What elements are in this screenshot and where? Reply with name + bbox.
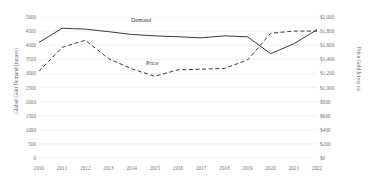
y-tick-left-2500: 2500: [12, 85, 36, 91]
x-tick-2022: 2022: [305, 165, 329, 171]
y-tick-left-3500: 3500: [12, 56, 36, 62]
plot-area: [39, 17, 317, 158]
y-tick-right-1800: $1,800: [320, 28, 348, 34]
x-tick-2013: 2013: [97, 165, 121, 171]
y-tick-left-1500: 1500: [12, 113, 36, 119]
price-line: [39, 31, 317, 76]
x-tick-2021: 2021: [282, 165, 306, 171]
y-tick-left-4500: 4500: [12, 28, 36, 34]
y-tick-left-3000: 3000: [12, 70, 36, 76]
y-tick-left-2000: 2000: [12, 99, 36, 105]
y-tick-right-400: $400: [320, 127, 348, 133]
x-tick-2017: 2017: [189, 165, 213, 171]
y-tick-right-600: $600: [320, 113, 348, 119]
y-tick-right-200: $200: [320, 141, 348, 147]
y-tick-left-4000: 4000: [12, 42, 36, 48]
y-tick-right-0: $0: [320, 155, 348, 161]
x-tick-2014: 2014: [120, 165, 144, 171]
y-axis-right-title: Price Gold $/troy oz: [356, 23, 362, 115]
y-tick-left-1000: 1000: [12, 127, 36, 133]
gold-demand-price-chart: Global Gold Demand (tonnes) Price Gold $…: [0, 0, 373, 186]
x-tick-2011: 2011: [50, 165, 74, 171]
y-tick-right-2000: $2,000: [320, 14, 348, 20]
price-series-label: Price: [146, 60, 158, 66]
x-tick-2020: 2020: [259, 165, 283, 171]
y-tick-left-500: 500: [12, 141, 36, 147]
x-tick-2018: 2018: [212, 165, 236, 171]
x-tick-2010: 2010: [27, 165, 51, 171]
x-tick-2019: 2019: [236, 165, 260, 171]
x-tick-2015: 2015: [143, 165, 167, 171]
y-tick-right-1200: $1,200: [320, 70, 348, 76]
y-tick-right-1600: $1,600: [320, 42, 348, 48]
demand-line: [39, 28, 317, 53]
x-tick-2012: 2012: [73, 165, 97, 171]
plot-svg: [39, 17, 317, 158]
gridlines: [39, 17, 317, 158]
y-tick-right-1000: $1,000: [320, 85, 348, 91]
y-tick-right-1400: $1,400: [320, 56, 348, 62]
y-tick-left-5000: 5000: [12, 14, 36, 20]
x-tick-2016: 2016: [166, 165, 190, 171]
y-tick-right-800: $800: [320, 99, 348, 105]
demand-series-label: Demand: [131, 17, 151, 23]
y-tick-left-0: 0: [12, 155, 36, 161]
